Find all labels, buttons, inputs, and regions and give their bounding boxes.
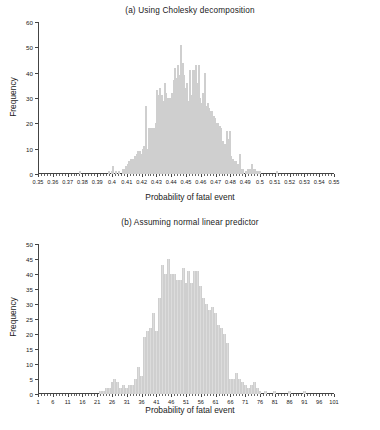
x-minor-tick-mark xyxy=(192,174,193,176)
x-minor-tick-mark xyxy=(139,174,140,176)
x-tick-mark xyxy=(201,174,202,177)
x-minor-tick-mark xyxy=(296,174,297,176)
x-minor-tick-mark xyxy=(263,394,264,396)
x-minor-tick-mark xyxy=(307,174,308,176)
x-minor-tick-mark xyxy=(269,174,270,176)
x-minor-tick-mark xyxy=(76,174,77,176)
x-minor-tick-mark xyxy=(195,174,196,176)
x-minor-tick-mark xyxy=(293,174,294,176)
x-tick-mark xyxy=(68,174,69,177)
x-tick-label: 0.45 xyxy=(181,179,192,185)
x-minor-tick-mark xyxy=(281,174,282,176)
panel-a-title: (a) Using Cholesky decomposition xyxy=(0,6,380,15)
x-minor-tick-mark xyxy=(59,174,60,176)
x-minor-tick-mark xyxy=(121,394,122,396)
x-minor-tick-mark xyxy=(257,394,258,396)
x-minor-tick-mark xyxy=(284,394,285,396)
panel-b: (b) Assuming normal linear predictor 051… xyxy=(0,212,380,430)
x-minor-tick-mark xyxy=(177,174,178,176)
x-minor-tick-mark xyxy=(180,394,181,396)
y-tick-mark xyxy=(35,319,38,320)
x-minor-tick-mark xyxy=(189,394,190,396)
x-tick-mark xyxy=(112,394,113,397)
x-tick-mark xyxy=(142,174,143,177)
x-minor-tick-mark xyxy=(198,174,199,176)
x-tick-mark xyxy=(260,174,261,177)
x-tick-mark xyxy=(216,394,217,397)
x-minor-tick-mark xyxy=(322,394,323,396)
x-minor-tick-mark xyxy=(328,394,329,396)
x-minor-tick-mark xyxy=(248,174,249,176)
x-minor-tick-mark xyxy=(74,394,75,396)
x-minor-tick-mark xyxy=(281,394,282,396)
x-minor-tick-mark xyxy=(79,174,80,176)
x-tick-mark xyxy=(304,394,305,397)
x-minor-tick-mark xyxy=(298,394,299,396)
x-minor-tick-mark xyxy=(322,174,323,176)
x-tick-label: 0.4 xyxy=(108,179,116,185)
x-minor-tick-mark xyxy=(103,394,104,396)
x-minor-tick-mark xyxy=(62,394,63,396)
x-minor-tick-mark xyxy=(115,394,116,396)
x-minor-tick-mark xyxy=(313,174,314,176)
x-minor-tick-mark xyxy=(50,174,51,176)
x-tick-mark xyxy=(260,394,261,397)
x-minor-tick-mark xyxy=(316,394,317,396)
x-tick-label: 0.35 xyxy=(33,179,44,185)
x-minor-tick-mark xyxy=(109,394,110,396)
x-minor-tick-mark xyxy=(239,394,240,396)
y-tick-mark xyxy=(35,274,38,275)
x-tick-label: 0.52 xyxy=(284,179,295,185)
x-minor-tick-mark xyxy=(219,174,220,176)
x-tick-label: 0.42 xyxy=(136,179,147,185)
x-minor-tick-mark xyxy=(106,394,107,396)
x-minor-tick-mark xyxy=(316,174,317,176)
x-minor-tick-mark xyxy=(162,394,163,396)
y-tick-mark xyxy=(35,304,38,305)
x-minor-tick-mark xyxy=(236,394,237,396)
x-tick-mark xyxy=(275,394,276,397)
x-minor-tick-mark xyxy=(251,394,252,396)
x-minor-tick-mark xyxy=(310,394,311,396)
x-minor-tick-mark xyxy=(79,394,80,396)
x-minor-tick-mark xyxy=(331,174,332,176)
x-minor-tick-mark xyxy=(91,174,92,176)
x-tick-mark xyxy=(112,174,113,177)
y-tick-mark xyxy=(35,259,38,260)
x-minor-tick-mark xyxy=(94,174,95,176)
x-tick-label: 0.38 xyxy=(77,179,88,185)
x-minor-tick-mark xyxy=(248,394,249,396)
x-tick-label: 0.5 xyxy=(256,179,264,185)
x-minor-tick-mark xyxy=(124,174,125,176)
figure-container: (a) Using Cholesky decomposition 0102030… xyxy=(0,0,380,430)
x-minor-tick-mark xyxy=(65,174,66,176)
x-minor-tick-mark xyxy=(222,394,223,396)
x-minor-tick-mark xyxy=(121,174,122,176)
x-minor-tick-mark xyxy=(62,174,63,176)
y-tick-label: 0 xyxy=(30,391,33,398)
x-minor-tick-mark xyxy=(136,394,137,396)
y-tick-label: 35 xyxy=(26,286,33,293)
x-minor-tick-mark xyxy=(136,174,137,176)
x-minor-tick-mark xyxy=(41,394,42,396)
x-minor-tick-mark xyxy=(242,174,243,176)
x-tick-mark xyxy=(319,394,320,397)
x-minor-tick-mark xyxy=(224,394,225,396)
x-tick-mark xyxy=(142,394,143,397)
x-tick-mark xyxy=(290,394,291,397)
y-tick-mark xyxy=(35,123,38,124)
x-minor-tick-mark xyxy=(183,174,184,176)
y-tick-label: 0 xyxy=(30,171,33,178)
x-minor-tick-mark xyxy=(145,174,146,176)
x-minor-tick-mark xyxy=(168,394,169,396)
x-minor-tick-mark xyxy=(236,174,237,176)
panel-a-plot-area: 0102030405060 0.350.360.370.380.390.40.4… xyxy=(38,22,334,174)
x-minor-tick-mark xyxy=(207,174,208,176)
panel-a-bars xyxy=(38,22,334,174)
x-tick-label: 0.46 xyxy=(195,179,206,185)
x-minor-tick-mark xyxy=(76,394,77,396)
x-minor-tick-mark xyxy=(59,394,60,396)
histogram-bar xyxy=(112,166,114,174)
x-minor-tick-mark xyxy=(287,394,288,396)
x-minor-tick-mark xyxy=(266,174,267,176)
